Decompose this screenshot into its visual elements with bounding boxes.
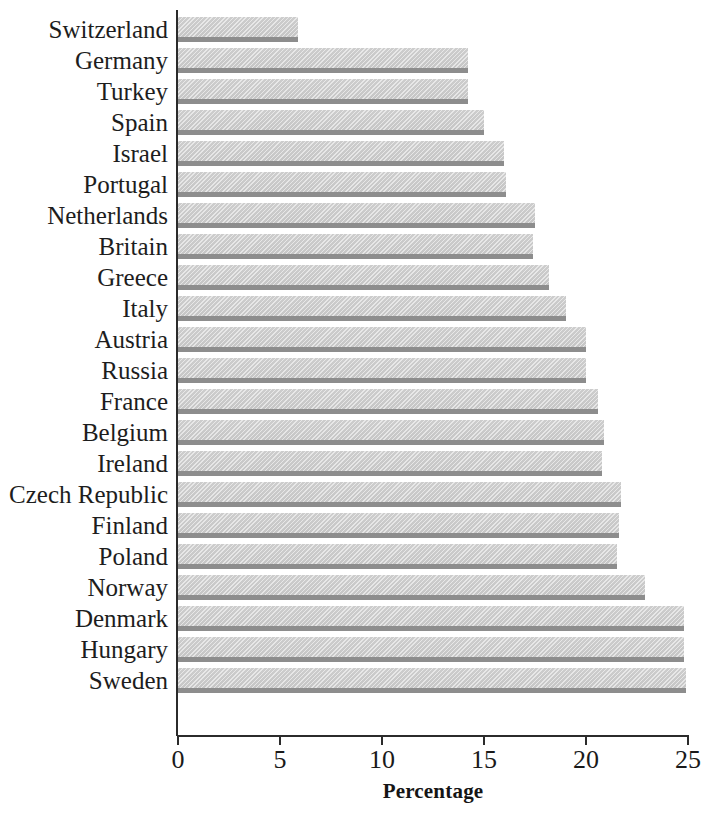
x-tick-label: 5 bbox=[250, 745, 310, 775]
bar-ireland bbox=[178, 451, 602, 476]
bar-belgium bbox=[178, 420, 604, 445]
x-tick-label: 20 bbox=[556, 745, 616, 775]
bar-norway bbox=[178, 575, 645, 600]
bar-chart-figure: SwitzerlandGermanyTurkeySpainIsraelPortu… bbox=[0, 0, 724, 830]
bar-france bbox=[178, 389, 598, 414]
category-label: France bbox=[0, 386, 168, 417]
bar-fill bbox=[178, 358, 586, 383]
bar-germany bbox=[178, 48, 468, 73]
category-label: Spain bbox=[0, 107, 168, 138]
category-label: Finland bbox=[0, 510, 168, 541]
bar-austria bbox=[178, 327, 586, 352]
bar-row: Poland bbox=[0, 541, 724, 572]
bar-row: Greece bbox=[0, 262, 724, 293]
bar-row: Spain bbox=[0, 107, 724, 138]
x-tick-mark bbox=[585, 736, 587, 745]
category-label: Hungary bbox=[0, 634, 168, 665]
bar-fill bbox=[178, 327, 586, 352]
bar-row: Israel bbox=[0, 138, 724, 169]
category-label: Greece bbox=[0, 262, 168, 293]
bar-netherlands bbox=[178, 203, 535, 228]
bar-row: Italy bbox=[0, 293, 724, 324]
bar-fill bbox=[178, 389, 598, 414]
bar-poland bbox=[178, 544, 617, 569]
x-axis-title: Percentage bbox=[178, 779, 688, 804]
category-label: Austria bbox=[0, 324, 168, 355]
x-axis-line bbox=[177, 735, 689, 737]
category-label: Ireland bbox=[0, 448, 168, 479]
x-tick-label: 10 bbox=[352, 745, 412, 775]
x-tick-mark bbox=[177, 736, 179, 745]
category-label: Russia bbox=[0, 355, 168, 386]
bar-britain bbox=[178, 234, 533, 259]
category-label: Switzerland bbox=[0, 14, 168, 45]
bar-row: France bbox=[0, 386, 724, 417]
category-label: Poland bbox=[0, 541, 168, 572]
bar-turkey bbox=[178, 79, 468, 104]
bar-row: Turkey bbox=[0, 76, 724, 107]
bar-fill bbox=[178, 482, 621, 507]
bar-czech-republic bbox=[178, 482, 621, 507]
bar-fill bbox=[178, 451, 602, 476]
bar-finland bbox=[178, 513, 619, 538]
bar-fill bbox=[178, 110, 484, 135]
x-tick-mark bbox=[381, 736, 383, 745]
bar-switzerland bbox=[178, 17, 298, 42]
x-tick-mark bbox=[483, 736, 485, 745]
bar-fill bbox=[178, 544, 617, 569]
bar-italy bbox=[178, 296, 566, 321]
bar-fill bbox=[178, 203, 535, 228]
bar-fill bbox=[178, 141, 504, 166]
bar-fill bbox=[178, 234, 533, 259]
x-tick-label: 25 bbox=[658, 745, 718, 775]
category-label: Portugal bbox=[0, 169, 168, 200]
bar-fill bbox=[178, 265, 549, 290]
x-tick-mark bbox=[279, 736, 281, 745]
bar-israel bbox=[178, 141, 504, 166]
category-label: Britain bbox=[0, 231, 168, 262]
category-label: Sweden bbox=[0, 665, 168, 696]
bar-row: Switzerland bbox=[0, 14, 724, 45]
bar-row: Finland bbox=[0, 510, 724, 541]
bar-fill bbox=[178, 606, 684, 631]
bar-row: Netherlands bbox=[0, 200, 724, 231]
bar-row: Belgium bbox=[0, 417, 724, 448]
bar-spain bbox=[178, 110, 484, 135]
bar-fill bbox=[178, 172, 506, 197]
category-label: Italy bbox=[0, 293, 168, 324]
bar-row: Denmark bbox=[0, 603, 724, 634]
bar-row: Sweden bbox=[0, 665, 724, 696]
bar-row: Britain bbox=[0, 231, 724, 262]
bar-fill bbox=[178, 48, 468, 73]
category-label: Israel bbox=[0, 138, 168, 169]
category-label: Norway bbox=[0, 572, 168, 603]
bar-row: Portugal bbox=[0, 169, 724, 200]
bar-sweden bbox=[178, 668, 686, 693]
bar-fill bbox=[178, 17, 298, 42]
category-label: Turkey bbox=[0, 76, 168, 107]
x-tick-label: 15 bbox=[454, 745, 514, 775]
bar-row: Hungary bbox=[0, 634, 724, 665]
bar-fill bbox=[178, 513, 619, 538]
bar-greece bbox=[178, 265, 549, 290]
bar-fill bbox=[178, 420, 604, 445]
bar-fill bbox=[178, 668, 686, 693]
bar-row: Germany bbox=[0, 45, 724, 76]
bar-row: Ireland bbox=[0, 448, 724, 479]
x-tick-label: 0 bbox=[148, 745, 208, 775]
category-label: Germany bbox=[0, 45, 168, 76]
bar-denmark bbox=[178, 606, 684, 631]
bar-row: Austria bbox=[0, 324, 724, 355]
category-label: Belgium bbox=[0, 417, 168, 448]
bar-fill bbox=[178, 296, 566, 321]
bar-row: Russia bbox=[0, 355, 724, 386]
x-tick-mark bbox=[687, 736, 689, 745]
bar-fill bbox=[178, 79, 468, 104]
bar-portugal bbox=[178, 172, 506, 197]
bar-russia bbox=[178, 358, 586, 383]
bar-fill bbox=[178, 575, 645, 600]
category-label: Czech Republic bbox=[0, 479, 168, 510]
bar-hungary bbox=[178, 637, 684, 662]
category-label: Denmark bbox=[0, 603, 168, 634]
category-label: Netherlands bbox=[0, 200, 168, 231]
